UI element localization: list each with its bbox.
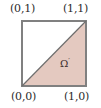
geometry-figure: (0,1) (1,1) (0,0) (1,0) Ω′ xyxy=(0,0,101,108)
corner-label-top-left: (0,1) xyxy=(10,3,35,14)
prime-symbol: ′ xyxy=(68,57,70,65)
corner-label-bottom-right: (1,0) xyxy=(64,91,89,102)
omega-prime-label: Ω′ xyxy=(60,59,70,69)
corner-label-bottom-left: (0,0) xyxy=(11,91,36,102)
corner-label-top-right: (1,1) xyxy=(63,3,88,14)
